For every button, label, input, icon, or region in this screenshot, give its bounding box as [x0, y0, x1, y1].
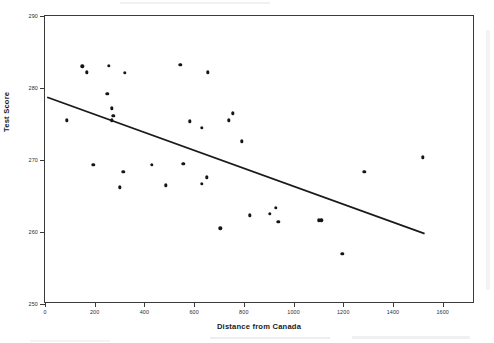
- x-axis-tick: [194, 302, 195, 307]
- y-axis-tick: [40, 88, 45, 89]
- x-axis-title: Distance from Canada: [44, 322, 474, 331]
- x-axis-tick: [244, 302, 245, 307]
- x-axis-tick: [393, 302, 394, 307]
- scan-artifact-top: [120, 2, 270, 4]
- y-axis-tick: [40, 16, 45, 17]
- y-axis-tick-label: 280: [29, 85, 38, 91]
- y-axis-tick: [40, 232, 45, 233]
- plot-frame: 2502602702802900200400600800100012001400…: [44, 15, 474, 303]
- x-axis-tick: [343, 302, 344, 307]
- x-axis-tick-label: 200: [90, 309, 99, 315]
- scan-artifact-bottom-far-left: [30, 340, 110, 342]
- x-axis-tick: [45, 302, 46, 307]
- x-axis-tick-label: 1200: [337, 309, 350, 315]
- y-axis-tick-label: 260: [29, 229, 38, 235]
- x-axis-tick-label: 600: [189, 309, 198, 315]
- x-axis-tick: [95, 302, 96, 307]
- x-axis-tick: [294, 302, 295, 307]
- y-axis-tick-label: 270: [29, 157, 38, 163]
- scan-artifact-right-edge: [486, 30, 490, 290]
- x-axis-tick-label: 1600: [436, 309, 449, 315]
- x-axis-tick-label: 800: [239, 309, 248, 315]
- x-axis-tick: [443, 302, 444, 307]
- scatter-plot-figure: Test Score 25026027028029002004006008001…: [0, 0, 494, 343]
- plot-area: [45, 16, 473, 302]
- scan-artifact-bottom-right: [352, 336, 470, 339]
- x-axis-tick-label: 400: [140, 309, 149, 315]
- y-axis-title: Test Score: [2, 92, 11, 132]
- y-axis-tick-label: 250: [29, 301, 38, 307]
- scan-artifact-bottom-left: [210, 337, 330, 339]
- y-axis-tick-label: 290: [29, 13, 38, 19]
- x-axis-tick: [144, 302, 145, 307]
- x-axis-tick-label: 0: [43, 309, 46, 315]
- y-axis-tick: [40, 160, 45, 161]
- x-axis-tick-label: 1000: [287, 309, 300, 315]
- trendline: [45, 16, 473, 302]
- x-axis-tick-label: 1400: [387, 309, 400, 315]
